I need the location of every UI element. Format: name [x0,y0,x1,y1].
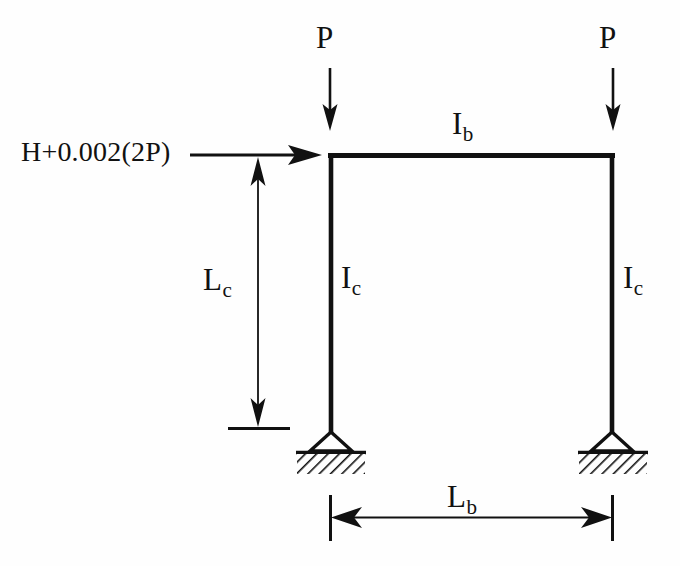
pin-support-left [296,432,366,474]
height-dimension [228,157,290,429]
column-inertia-left-subscript: c [351,276,361,300]
column-length-subscript: c [222,278,232,302]
label-beam-inertia: Ib [452,108,473,145]
beam-inertia-symbol: I [452,106,462,141]
beam-span-symbol: L [447,479,466,514]
column-inertia-right-subscript: c [633,276,643,300]
label-load-left: P [316,22,333,53]
beam-span-subscript: b [466,495,477,519]
pin-support-right [578,432,648,474]
load-left-symbol: P [316,20,333,55]
frame-diagram-svg [0,0,680,566]
label-beam-span: Lb [447,481,477,518]
column-inertia-right-symbol: I [623,260,633,295]
label-load-right: P [599,22,616,53]
support-triangle-left [310,432,352,451]
beam-inertia-subscript: b [462,122,473,146]
label-column-inertia-right: Ic [623,262,643,299]
figure-canvas: P P Ib Ic Ic Lc Lb H+0.002(2P) [0,0,680,566]
support-hatch-right [579,454,647,474]
lateral-load-arrow [190,145,322,165]
load-arrow-right [606,68,621,131]
label-lateral-load: H+0.002(2P) [21,138,170,166]
support-hatch-left [297,454,365,474]
frame-structure [328,153,615,433]
label-column-length: Lc [203,264,232,301]
column-length-symbol: L [203,262,222,297]
column-inertia-left-symbol: I [341,260,351,295]
load-right-symbol: P [599,20,616,55]
support-triangle-right [591,432,633,451]
label-column-inertia-left: Ic [341,262,361,299]
load-arrow-left [323,68,338,131]
